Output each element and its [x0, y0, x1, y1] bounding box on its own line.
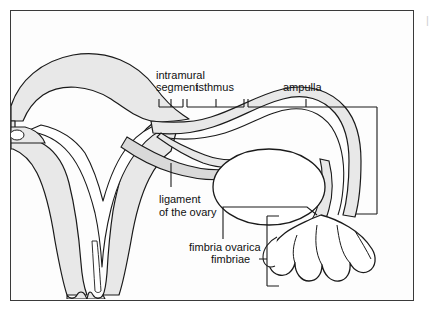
bracket-isthmus — [187, 99, 244, 107]
label-fimbria-ovarica: fimbria ovarica — [189, 241, 261, 253]
label-intramural-line2: segment — [156, 81, 198, 93]
fimbria-small-lobe — [263, 237, 277, 267]
cervix-right-tip — [87, 292, 105, 299]
fimbriae-mass — [268, 215, 375, 281]
page-edge-artifact: | — [426, 14, 438, 40]
label-ampulla: ampulla — [283, 81, 322, 93]
label-isthmus: isthmus — [196, 81, 234, 93]
label-intramural-line1: intramural — [156, 69, 205, 81]
ovary — [213, 149, 325, 225]
figure-frame: intramural segment isthmus ampulla ligam… — [10, 10, 414, 301]
label-ligament-line1: ligament — [159, 193, 201, 205]
label-fimbriae: fimbriae — [211, 253, 250, 265]
cervical-canal — [92, 241, 101, 293]
label-ligament-line2: of the ovary — [159, 206, 217, 218]
left-stump-lumen — [11, 130, 24, 140]
figure-page: intramural segment isthmus ampulla ligam… — [0, 0, 440, 314]
anatomy-diagram: intramural segment isthmus ampulla ligam… — [11, 11, 412, 299]
